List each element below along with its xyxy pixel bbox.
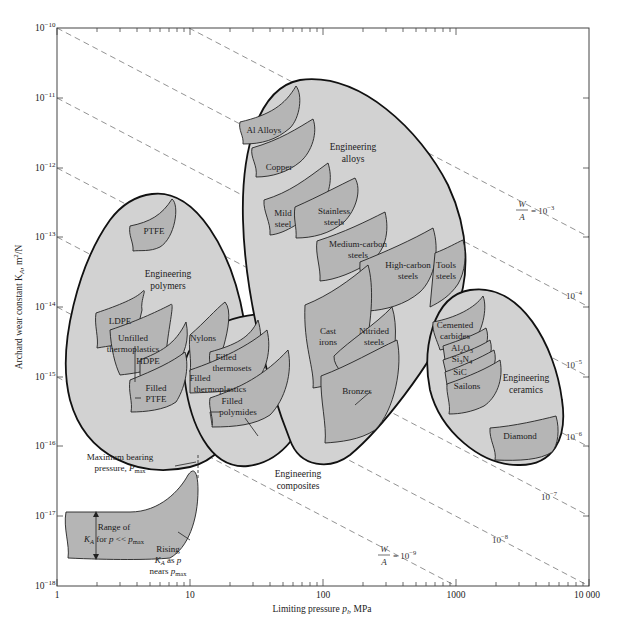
x-tick-1000: 1000	[447, 590, 466, 600]
label-filled-polymides-1: Filled	[221, 396, 243, 406]
y-tick-1e-13: 10−13	[35, 230, 56, 242]
label-unfilled-2: thermoplastics	[107, 344, 160, 354]
label-high-carbon-1: High-carbon	[385, 260, 431, 270]
label-1e-8: 10−8	[492, 533, 508, 545]
x-tick-10000: 10 000	[574, 590, 600, 600]
y-tick-1e-16: 10−16	[35, 439, 56, 451]
wear-map-chart: 10−10 10−11 10−12 10−13 10−14 10−15 10−1…	[0, 0, 619, 628]
x-tick-1: 1	[55, 590, 60, 600]
label-engineering-alloys-1: Engineering	[330, 142, 377, 152]
label-cast-2: irons	[319, 337, 337, 347]
y-tick-labels: 10−10 10−11 10−12 10−13 10−14 10−15 10−1…	[35, 21, 56, 591]
key-rising-2: KA as p	[154, 555, 182, 566]
label-1e-4: 10−4	[566, 289, 583, 301]
label-medium-carbon-2: steels	[348, 250, 368, 260]
label-engineering-polymers-1: Engineering	[145, 269, 192, 279]
label-al-alloys: Al Alloys	[247, 125, 282, 135]
label-diamond: Diamond	[503, 431, 537, 441]
y-tick-1e-15: 10−15	[35, 370, 56, 382]
x-tick-10: 10	[185, 590, 195, 600]
y-tick-1e-17: 10−17	[35, 509, 56, 521]
label-cemented-2: carbides	[440, 331, 470, 341]
label-ldpe: LDPE	[109, 316, 132, 326]
label-filled-thermosets-1: Filled	[215, 352, 237, 362]
svg-text:= 10−3: = 10−3	[531, 204, 554, 216]
label-copper: Copper	[266, 162, 293, 172]
y-tick-1e-14: 10−14	[35, 300, 56, 312]
label-hdpe: HDPE	[136, 356, 160, 366]
label-1e-6: 10−6	[566, 430, 583, 442]
key-max-bearing-1: Maximum bearing	[87, 452, 154, 462]
label-sailons: Sailons	[454, 381, 481, 391]
label-filled-ptfe-1: Filled	[145, 383, 167, 393]
svg-text:A: A	[518, 212, 525, 222]
label-medium-carbon-1: Medium-carbon	[329, 239, 387, 249]
label-cemented-1: Cemented	[437, 320, 474, 330]
label-stainless-1: Stainless	[318, 206, 350, 216]
label-engineering-ceramics-2: ceramics	[509, 385, 543, 395]
label-mild-1: Mild	[274, 208, 292, 218]
y-tick-1e-10: 10−10	[35, 21, 56, 33]
label-filled-polymides-2: polymides	[219, 407, 257, 417]
label-nitrided-1: Nitrided	[359, 326, 389, 336]
label-tools-1: Tools	[436, 260, 456, 270]
label-engineering-ceramics-1: Engineering	[503, 373, 550, 383]
label-engineering-polymers-2: polymers	[150, 281, 186, 291]
label-filled-thermosets-2: thermosets	[213, 363, 252, 373]
label-1e-7: 10−7	[541, 490, 558, 502]
label-stainless-2: steels	[324, 217, 344, 227]
label-sic: SiC	[453, 367, 467, 377]
label-filled-ptfe-2: PTFE	[145, 394, 167, 404]
label-engineering-composites-1: Engineering	[275, 469, 322, 479]
label-engineering-alloys-2: alloys	[342, 154, 365, 164]
label-wa-1e-9: W A = 10−9	[378, 544, 416, 567]
label-mild-2: steel	[275, 219, 292, 229]
y-tick-1e-18: 10−18	[35, 579, 56, 591]
label-1e-5: 10−5	[566, 358, 582, 370]
label-tools-2: steels	[436, 271, 456, 281]
label-cast-1: Cast	[320, 326, 337, 336]
svg-text:W: W	[380, 544, 389, 554]
key-range-1: Range of	[98, 522, 131, 532]
x-axis-title: Limiting pressure pl, MPa	[272, 604, 372, 616]
key-rising-1: Rising	[156, 544, 180, 554]
label-filled-thermoplastics-1: Filled	[189, 373, 211, 383]
x-tick-100: 100	[316, 590, 331, 600]
label-unfilled-1: Unfilled	[118, 333, 148, 343]
x-tick-labels: 1 10 100 1000 10 000	[55, 590, 601, 600]
label-high-carbon-2: steels	[398, 271, 418, 281]
y-tick-1e-12: 10−12	[35, 161, 56, 173]
y-axis-title: Archard wear constant KA, m2/N	[12, 245, 26, 370]
label-nylons: Nylons	[190, 333, 217, 343]
label-engineering-composites-2: composites	[277, 481, 320, 491]
svg-text:= 10−9: = 10−9	[393, 549, 416, 561]
label-filled-thermoplastics-2: thermoplastics	[194, 384, 247, 394]
label-ptfe: PTFE	[143, 226, 165, 236]
label-bronzes: Bronzes	[342, 386, 372, 396]
y-tick-1e-11: 10−11	[35, 91, 56, 103]
label-nitrided-2: steels	[364, 337, 384, 347]
svg-text:A: A	[380, 557, 387, 567]
key-rising-3: nears pmax	[150, 566, 188, 577]
label-wa-1e-3: W A = 10−3	[516, 199, 554, 222]
